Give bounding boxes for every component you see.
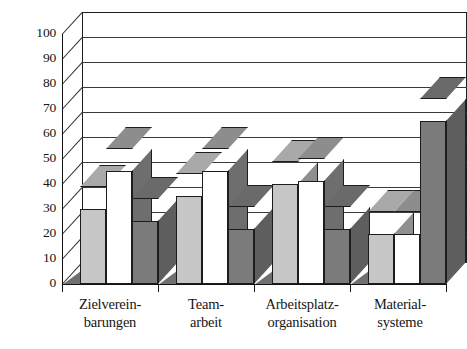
bar-face: [176, 196, 202, 284]
bar-face: [80, 209, 106, 284]
bar-zielvereinbarungen-series-3: [132, 199, 158, 284]
bar-face: [202, 171, 228, 284]
y-tick-label-60: 60: [18, 126, 56, 140]
depth-connector-60: [62, 112, 83, 135]
y-tick-label-0: 0: [18, 276, 56, 290]
bar-face: [272, 184, 298, 284]
x-category-label-line-2: organisation: [250, 314, 354, 332]
bar-teamarbeit-series-2: [202, 149, 228, 284]
x-tick-0: [62, 284, 63, 292]
bar-face: [324, 229, 350, 284]
bar-arbeitsplatzorganisation-series-2: [298, 159, 324, 284]
bar-zielvereinbarungen-series-1: [80, 187, 106, 284]
bar-teamarbeit-series-1: [176, 174, 202, 284]
gridline-70: [82, 112, 467, 113]
bar-face: [106, 171, 132, 284]
x-category-label-line-2: systeme: [352, 314, 448, 332]
x-category-label-line-1: Team-: [158, 296, 254, 314]
y-tick-label-10: 10: [18, 251, 56, 265]
bar-face: [420, 121, 446, 284]
bar-side: [446, 99, 466, 284]
x-category-label-teamarbeit: Team- arbeit: [158, 296, 254, 331]
x-category-label-arbeitsplatzorganisation: Arbeitsplatz- organisation: [250, 296, 354, 331]
depth-connector-50: [62, 137, 83, 160]
y-tick-label-40: 40: [18, 176, 56, 190]
bar-face: [132, 221, 158, 284]
y-tick-label-90: 90: [18, 51, 56, 65]
bar-face: [394, 234, 420, 284]
x-category-label-line-1: Zielverein-: [60, 296, 160, 314]
gridline-80: [82, 87, 467, 88]
x-tick-2: [254, 284, 255, 292]
gridline-90: [82, 62, 467, 63]
bar-face: [298, 181, 324, 284]
bar-materialsysteme-series-2: [394, 212, 420, 284]
x-category-label-line-2: arbeit: [158, 314, 254, 332]
x-category-label-zielvereinbarungen: Zielverein- barungen: [60, 296, 160, 331]
y-tick-label-80: 80: [18, 76, 56, 90]
bar-teamarbeit-series-3: [228, 207, 254, 284]
y-tick-label-70: 70: [18, 101, 56, 115]
gridline-100: [82, 37, 467, 38]
y-axis: [62, 34, 63, 284]
x-tick-1: [158, 284, 159, 292]
bar-zielvereinbarungen-series-2: [106, 149, 132, 284]
y-tick-label-100: 100: [18, 26, 56, 40]
x-tick-3: [350, 284, 351, 292]
depth-connector-70: [62, 87, 83, 110]
depth-connector-100: [62, 12, 83, 35]
bar-materialsysteme-series-1: [368, 212, 394, 284]
x-category-label-line-2: barungen: [60, 314, 160, 332]
depth-connector-90: [62, 37, 83, 60]
bar-arbeitsplatzorganisation-series-1: [272, 162, 298, 284]
x-category-label-materialsysteme: Material- systeme: [352, 296, 448, 331]
bar-arbeitsplatzorganisation-series-3: [324, 207, 350, 284]
bar-face: [368, 234, 394, 284]
y-tick-label-30: 30: [18, 201, 56, 215]
y-tick-label-50: 50: [18, 151, 56, 165]
x-category-label-line-1: Material-: [352, 296, 448, 314]
y-tick-label-20: 20: [18, 226, 56, 240]
bar-face: [228, 229, 254, 284]
x-category-label-line-1: Arbeitsplatz-: [250, 296, 354, 314]
depth-connector-80: [62, 62, 83, 85]
bar-materialsysteme-series-3: [420, 99, 446, 284]
depth-connector-40: [62, 162, 83, 185]
x-tick-4: [446, 284, 447, 292]
